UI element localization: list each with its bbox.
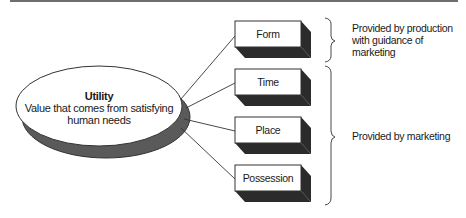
utility-description-line1: Value that comes from satisfying	[16, 102, 182, 114]
connector-possession	[181, 128, 235, 179]
note-production: Provided by production with guidance of …	[352, 22, 466, 58]
box-place: Place	[235, 117, 301, 143]
utility-title: Utility	[16, 90, 182, 102]
utility-label: Utility Value that comes from satisfying…	[16, 90, 182, 126]
brace-production	[325, 18, 335, 62]
box-form: Form	[235, 21, 301, 47]
connector-form	[181, 36, 235, 99]
utility-description-line2: human needs	[16, 114, 182, 126]
note-production-line1: Provided by production	[352, 22, 466, 34]
note-production-line2: with guidance of marketing	[352, 34, 466, 58]
connector-place	[184, 119, 235, 131]
connector-time	[186, 83, 235, 108]
note-marketing-line1: Provided by marketing	[352, 130, 450, 142]
box-time: Time	[235, 69, 301, 95]
note-marketing: Provided by marketing	[352, 130, 450, 142]
brace-marketing	[325, 66, 335, 205]
box-possession: Possession	[235, 165, 301, 191]
